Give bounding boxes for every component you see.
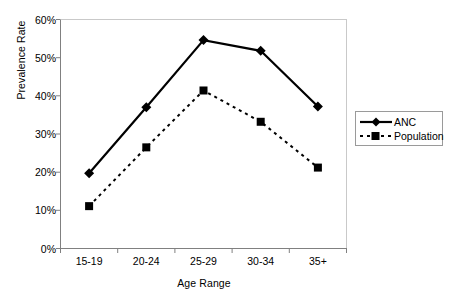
legend-swatch-population-line-icon [359, 130, 393, 142]
y-tick-marks [56, 20, 61, 249]
x-tick-label: 30-34 [231, 255, 291, 267]
y-tick-label: 10% [22, 205, 56, 215]
y-axis-title: Prevalence Rate [15, 20, 27, 99]
x-tick-label: 25-29 [174, 255, 234, 267]
legend-swatch-anc-line-icon [359, 116, 393, 128]
x-tick-label: 15-19 [59, 255, 119, 267]
x-axis-tick-labels: 15-19 20-24 25-29 30-34 35+ [0, 255, 449, 271]
y-tick-label: 60% [22, 15, 56, 25]
series-markers-population [85, 86, 322, 210]
chart-legend: ANC Population [355, 111, 443, 146]
legend-label-anc: ANC [393, 116, 416, 128]
x-tick-label: 35+ [288, 255, 348, 267]
y-tick-label: 50% [22, 53, 56, 63]
y-tick-label: 0% [22, 244, 56, 254]
series-markers-anc [84, 35, 323, 178]
x-tick-marks [61, 249, 347, 254]
x-axis-title: Age Range [177, 277, 230, 289]
legend-item-anc[interactable]: ANC [359, 115, 437, 129]
y-axis-title-wrapper: Prevalence Rate [11, 0, 27, 143]
x-tick-label: 20-24 [116, 255, 176, 267]
series-line-anc [89, 40, 318, 173]
y-tick-label: 20% [22, 167, 56, 177]
y-tick-label: 40% [22, 91, 56, 101]
x-axis-title-wrapper: Age Range [60, 273, 348, 291]
chart-plot-area [0, 0, 449, 295]
series-line-population [89, 91, 318, 207]
y-tick-label: 30% [22, 129, 56, 139]
chart-container: 60% 50% 40% 30% 20% 10% 0% 15-19 20-24 2… [0, 0, 449, 295]
legend-label-population: Population [393, 130, 444, 142]
legend-item-population[interactable]: Population [359, 129, 437, 143]
